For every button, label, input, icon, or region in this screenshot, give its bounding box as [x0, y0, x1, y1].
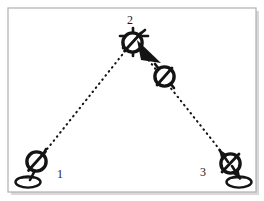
station-1-theodolite-icon: [27, 152, 46, 172]
surveying-traverse-figure: 1 2: [0, 0, 264, 201]
figure-canvas: 1 2: [0, 0, 264, 201]
station-1-label: 1: [57, 167, 63, 181]
station-3-label: 3: [200, 165, 206, 179]
station-1-tripod-icon: [16, 176, 41, 187]
station-2-label: 2: [127, 13, 133, 27]
foresight-instrument-group: [155, 64, 174, 88]
